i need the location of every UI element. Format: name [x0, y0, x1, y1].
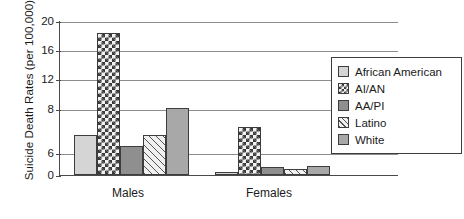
legend-item-white: White — [338, 131, 455, 148]
bar-males-african-american — [74, 135, 97, 175]
y-tick-label-0: 0 — [32, 170, 54, 182]
bar-males-white — [166, 108, 189, 176]
legend-swatch-icon — [338, 66, 349, 77]
legend-item-label: Latino — [355, 117, 386, 129]
bar-females-ai-an — [238, 127, 261, 175]
x-axis-label-females: Females — [209, 186, 329, 200]
y-tick-label-6: 6 — [32, 148, 54, 160]
legend-item-latino: Latino — [338, 114, 455, 131]
bar-females-latino — [284, 169, 307, 175]
bar-females-african-american — [215, 172, 238, 175]
y-tick-label-8: 8 — [32, 104, 54, 116]
tick-mark-0 — [56, 176, 61, 177]
tick-mark-6 — [56, 154, 61, 155]
legend-swatch-icon — [338, 83, 349, 94]
chart-legend: African AmericanAI/ANAA/PILatinoWhite — [331, 57, 462, 154]
legend-item-african-american: African American — [338, 63, 455, 80]
x-axis-label-males: Males — [68, 186, 188, 200]
y-tick-label-20: 20 — [32, 16, 54, 28]
y-axis-tick-labels: 068121620 — [28, 0, 54, 219]
tick-mark-8 — [56, 110, 61, 111]
legend-item-label: AA/PI — [355, 100, 384, 112]
bar-females-aa-pi — [261, 167, 284, 175]
tick-mark-20 — [56, 22, 61, 23]
bar-males-aa-pi — [120, 146, 143, 175]
suicide-death-rates-bar-chart: Suicide Death Rates (per 100,000) 068121… — [0, 0, 464, 219]
legend-swatch-icon — [338, 134, 349, 145]
bar-males-latino — [143, 135, 166, 175]
tick-mark-16 — [56, 51, 61, 52]
legend-swatch-icon — [338, 100, 349, 111]
tick-mark-12 — [56, 80, 61, 81]
bar-males-ai-an — [97, 33, 120, 175]
legend-swatch-icon — [338, 117, 349, 128]
legend-item-label: White — [355, 134, 384, 146]
legend-item-label: AI/AN — [355, 83, 385, 95]
y-tick-label-12: 12 — [32, 74, 54, 86]
legend-item-ai-an: AI/AN — [338, 80, 455, 97]
y-tick-label-16: 16 — [32, 45, 54, 57]
gridline-20 — [60, 22, 398, 23]
legend-item-label: African American — [355, 66, 442, 78]
legend-item-aa-pi: AA/PI — [338, 97, 455, 114]
bar-females-white — [307, 166, 330, 175]
